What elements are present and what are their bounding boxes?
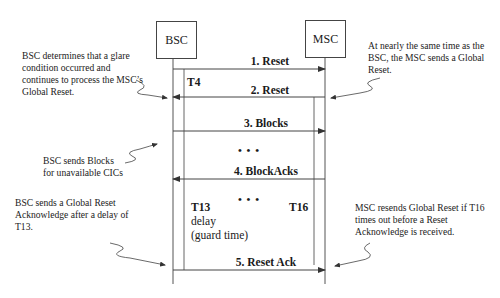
t13-guard-time-text: (guard time) — [191, 229, 248, 242]
pointer-reset-ack — [110, 243, 165, 265]
timer-t4-label: T4 — [187, 76, 200, 88]
message-2-label: 2. Reset — [200, 84, 340, 96]
msc-label: MSC — [313, 32, 338, 47]
bsc-entity-box: BSC — [156, 21, 197, 59]
note-msc-reset: At nearly the same time as the BSC, the … — [368, 40, 484, 76]
timer-t13-label: T13 — [191, 201, 210, 213]
note-resend: MSC resends Global Reset if T16 times ou… — [355, 202, 485, 238]
note-glare: BSC determines that a glare condition oc… — [22, 50, 143, 98]
ellipsis-1: • • • — [238, 144, 260, 156]
pointer-resend — [335, 243, 370, 266]
message-5-label: 5. Reset Ack — [196, 256, 336, 268]
note-reset-ack: BSC sends a Global Reset Acknowledge aft… — [15, 197, 128, 233]
note-blocks: BSC sends Blocks for unavailable CICs — [43, 155, 123, 179]
t13-delay-text: delay — [191, 215, 216, 228]
message-1-label: 1. Reset — [200, 55, 340, 67]
timer-t16-label: T16 — [289, 201, 308, 213]
ellipsis-2: • • • — [238, 193, 260, 205]
pointer-blocks — [125, 144, 157, 163]
msc-entity-box: MSC — [305, 20, 346, 58]
bsc-label: BSC — [165, 33, 188, 48]
message-4-label: 4. BlockAcks — [196, 165, 336, 177]
message-3-label: 3. Blocks — [196, 117, 336, 129]
